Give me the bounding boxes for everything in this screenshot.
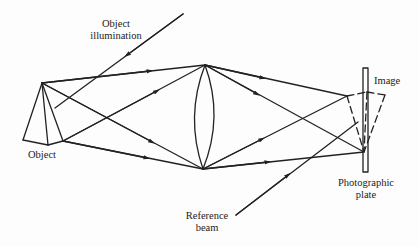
photographic-plate-label-line2: plate bbox=[356, 189, 376, 201]
object-illumination-label-line1: Object bbox=[102, 18, 130, 30]
object-illumination-label-line2: illumination bbox=[90, 30, 141, 42]
photographic-plate-label-line1: Photographic bbox=[338, 177, 394, 189]
reference-beam-label-line1: Reference bbox=[186, 210, 229, 222]
hologram-diagram: Object illumination Object Image Referen… bbox=[0, 0, 419, 246]
lens-icon bbox=[194, 65, 214, 169]
object-label: Object bbox=[28, 149, 56, 161]
object-to-lens-rays bbox=[42, 65, 205, 169]
reference-beam bbox=[236, 122, 358, 215]
reference-beam-label-line2: beam bbox=[196, 222, 219, 234]
object-pyramid-icon bbox=[23, 83, 63, 145]
lens-to-image-rays bbox=[203, 65, 364, 169]
image-label: Image bbox=[374, 75, 400, 87]
